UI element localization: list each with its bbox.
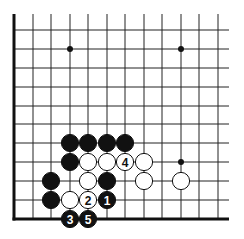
white-stone-icon — [98, 153, 115, 170]
white-stone-icon — [135, 153, 152, 170]
move-number: 3 — [67, 213, 74, 227]
white-stone: 4 — [116, 153, 133, 170]
star-point-icon — [178, 46, 184, 52]
black-stone — [79, 134, 96, 151]
star-point-icon — [178, 159, 184, 165]
black-stone-icon — [98, 172, 115, 189]
black-stone-icon — [98, 134, 115, 151]
black-stone: 3 — [61, 210, 78, 227]
white-stone — [61, 191, 78, 208]
white-stone-icon — [61, 191, 78, 208]
black-stone-icon — [42, 172, 59, 189]
white-stone-icon — [172, 172, 189, 189]
white-stone — [135, 172, 152, 189]
white-stone-icon — [135, 172, 152, 189]
black-stone-icon — [79, 134, 96, 151]
grid-lines — [13, 14, 230, 221]
black-stone — [116, 134, 133, 151]
black-stone-icon — [42, 191, 59, 208]
black-stone-icon — [61, 134, 78, 151]
white-stone — [79, 172, 96, 189]
white-stone — [79, 153, 96, 170]
white-stone-icon — [79, 153, 96, 170]
move-number: 1 — [104, 194, 111, 208]
black-stone — [42, 172, 59, 189]
star-point-icon — [67, 46, 73, 52]
move-number: 4 — [122, 156, 129, 170]
black-stone — [61, 153, 78, 170]
white-stone-icon — [79, 172, 96, 189]
white-stone — [98, 153, 115, 170]
black-stone-icon — [116, 134, 133, 151]
white-stone — [172, 172, 189, 189]
black-stone — [42, 191, 59, 208]
white-stone: 2 — [79, 191, 96, 208]
black-stone: 5 — [79, 210, 96, 227]
black-stone: 1 — [98, 191, 115, 208]
go-board-diagram: 42135 — [0, 0, 244, 239]
black-stone — [98, 134, 115, 151]
move-number: 5 — [85, 213, 92, 227]
black-stone-icon — [61, 153, 78, 170]
black-stone — [98, 172, 115, 189]
black-stone — [61, 134, 78, 151]
white-stone — [135, 153, 152, 170]
move-number: 2 — [85, 194, 92, 208]
